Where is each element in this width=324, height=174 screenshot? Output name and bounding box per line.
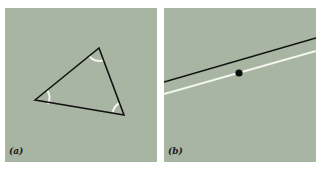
- lines-figure: [164, 8, 316, 162]
- panel-b: (b): [164, 8, 316, 162]
- triangle: [35, 48, 124, 115]
- panel-label-b: (b): [168, 146, 183, 156]
- panel-a: (a): [5, 8, 157, 162]
- triangle-figure: [5, 8, 157, 162]
- point-dot: [235, 69, 242, 76]
- panel-label-a: (a): [9, 146, 23, 156]
- angle-arc-right: [113, 103, 120, 112]
